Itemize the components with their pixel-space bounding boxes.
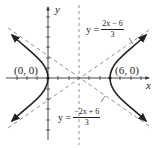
equation-numerator: 2x − 6 (101, 20, 124, 30)
leader-line-bottom (101, 96, 105, 102)
equation-denominator: 3 (110, 30, 114, 39)
vertex-point-right (108, 76, 111, 79)
x-axis-label: x (146, 80, 151, 91)
asymptote-equation-bottom: y = −2x + 6 3 (58, 108, 100, 127)
equation-denominator: 3 (85, 118, 89, 127)
equation-numerator: −2x + 6 (73, 108, 100, 118)
y-axis-label: y (55, 4, 60, 15)
asymptote-equation-top: y = 2x − 6 3 (86, 20, 124, 39)
equation-fraction: −2x + 6 3 (73, 108, 100, 127)
equation-prefix: y = (58, 113, 71, 123)
equation-fraction: 2x − 6 3 (101, 20, 124, 39)
vertex-point-left (46, 76, 49, 79)
vertex-label-right: (6, 0) (115, 65, 139, 76)
vertex-label-left: (0, 0) (14, 65, 38, 76)
equation-prefix: y = (86, 25, 99, 35)
